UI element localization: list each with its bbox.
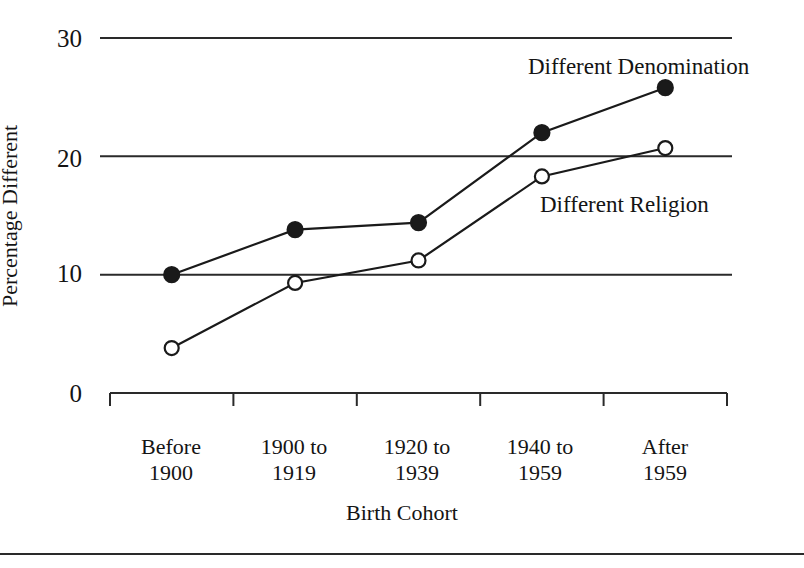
x-axis-tick-label-4: After1959 bbox=[603, 434, 727, 486]
x-axis-tick-label-0: Before1900 bbox=[111, 434, 231, 486]
chart-figure: Percentage Different 30 20 10 0 Before19… bbox=[0, 0, 804, 568]
x-axis-title: Birth Cohort bbox=[0, 500, 804, 526]
x-axis-tick-label-3: 1940 to1959 bbox=[480, 434, 600, 486]
x-axis-tick-label-2: 1920 to1939 bbox=[357, 434, 477, 486]
x-axis bbox=[110, 393, 727, 406]
x-axis-tick-label-1: 1900 to1919 bbox=[234, 434, 354, 486]
series-label-different-religion: Different Religion bbox=[540, 192, 709, 218]
series-label-different-denomination: Different Denomination bbox=[528, 54, 749, 80]
figure-bottom-rule bbox=[0, 553, 804, 555]
